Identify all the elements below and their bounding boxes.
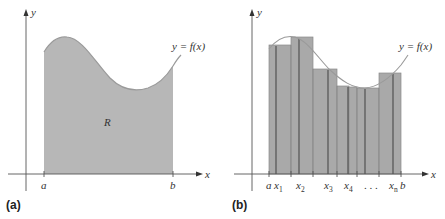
panel-b-label: (b) bbox=[232, 198, 247, 212]
x-axis-label-b: x bbox=[430, 168, 436, 180]
tick-a-label-b: a bbox=[266, 179, 272, 191]
bar-4 bbox=[337, 86, 349, 174]
x-axis-arrow-icon-b bbox=[422, 172, 429, 177]
bar-5 bbox=[349, 87, 357, 174]
bar-1 bbox=[269, 45, 291, 174]
panel-a-label: (a) bbox=[6, 198, 21, 212]
curve-label-b: y = f(x) bbox=[398, 40, 432, 53]
bar-7 bbox=[379, 73, 401, 174]
ellipsis-label: . . . bbox=[364, 179, 378, 191]
tick-a-label: a bbox=[41, 179, 47, 191]
sample-label-x4: x4 bbox=[343, 179, 353, 194]
region-r bbox=[44, 37, 173, 174]
bar-6 bbox=[357, 88, 379, 174]
sample-label-xn: xn bbox=[388, 179, 398, 194]
tick-b-label-b: b bbox=[400, 179, 406, 191]
sample-label-x3: x3 bbox=[323, 179, 333, 194]
curve-label-text: y = f(x) bbox=[171, 40, 205, 53]
tick-b-label: b bbox=[170, 179, 176, 191]
panel-a: y x y = f(x) R a b (a) bbox=[6, 6, 210, 212]
riemann-sum-figure: y x y = f(x) R a b (a) bbox=[0, 0, 445, 219]
y-axis-arrow-icon bbox=[24, 9, 29, 16]
sample-label-x1: x1 bbox=[273, 179, 283, 194]
curve-label: y = f(x) bbox=[171, 40, 205, 53]
y-axis-label-b: y bbox=[256, 6, 262, 18]
sample-label-x2: x2 bbox=[295, 179, 305, 194]
y-axis-arrow-icon-b bbox=[250, 9, 255, 16]
y-axis-label: y bbox=[30, 6, 36, 18]
x-axis-label: x bbox=[204, 168, 210, 180]
region-label: R bbox=[103, 116, 111, 128]
bar-2 bbox=[291, 37, 313, 174]
x-axis-arrow-icon bbox=[196, 172, 203, 177]
panel-b: y x y = f(x) a x1 x2 x3 x4 . . . xn b (b… bbox=[232, 6, 436, 212]
riemann-bars bbox=[269, 37, 401, 174]
bar-3 bbox=[313, 69, 337, 174]
